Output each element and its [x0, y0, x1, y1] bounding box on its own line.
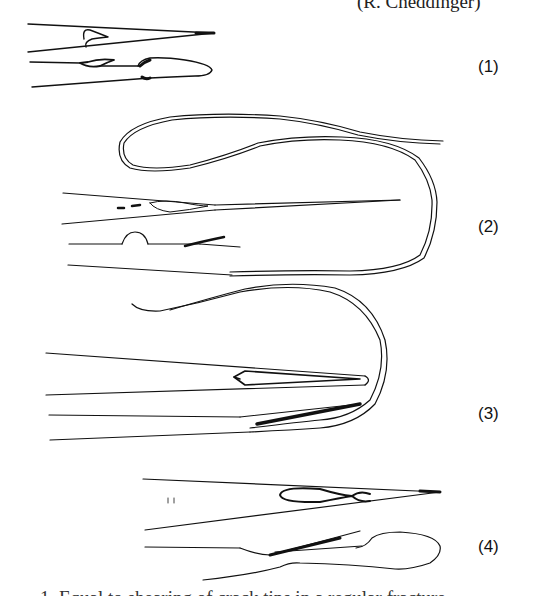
panel-3-drawing: [46, 284, 387, 440]
panel-label-3: (3): [478, 404, 499, 424]
panel-label-4: (4): [478, 537, 499, 557]
panel-4-drawing: [143, 479, 440, 580]
panel-1-drawing: [28, 24, 214, 87]
figure-drawing: [0, 0, 545, 596]
panel-label-2: (2): [478, 217, 499, 237]
panel-2-drawing: [62, 114, 443, 276]
panel-label-1: (1): [478, 57, 499, 77]
figure-caption: 1. Equal to shearing of crack tips in a …: [40, 586, 520, 596]
